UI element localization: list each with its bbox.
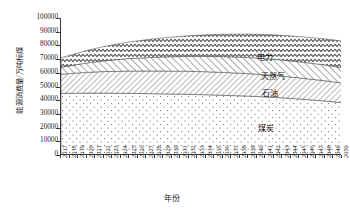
x-axis-tick-label: 2040 (258, 145, 264, 158)
x-axis-tick-label: 2043 (284, 145, 290, 158)
x-axis-tick-label: 2046 (309, 145, 315, 158)
x-axis-tick-label: 2025 (131, 145, 137, 158)
x-axis-tick-label: 2050 (343, 145, 349, 158)
x-axis-tick-label: 2044 (292, 145, 298, 158)
x-axis-tick-label: 2035 (216, 145, 222, 158)
x-axis-tick-label: 2022 (105, 145, 111, 158)
x-axis-tick-label: 2042 (275, 145, 281, 158)
x-axis-tick-label: 2029 (165, 145, 171, 158)
x-axis-tick-label: 2047 (318, 145, 324, 158)
x-axis-tick-label: 2020 (88, 145, 94, 158)
x-axis-tick-label: 2026 (139, 145, 145, 158)
x-axis-tick-label: 2033 (199, 145, 205, 158)
x-axis-tick-label: 2036 (224, 145, 230, 158)
x-axis-tick-label: 2048 (326, 145, 332, 158)
x-axis-tick-label: 2037 (233, 145, 239, 158)
x-axis-tick-label: 2049 (335, 145, 341, 158)
x-axis-tick-label: 2023 (113, 145, 119, 158)
x-axis-tick-label: 2038 (241, 145, 247, 158)
x-axis-tick-label: 2030 (173, 145, 179, 158)
x-axis-tick-label: 2034 (207, 145, 213, 158)
x-axis-tick-label: 2019 (79, 145, 85, 158)
x-axis-tick-label: 2031 (182, 145, 188, 158)
x-axis-tick-label: 2024 (122, 145, 128, 158)
x-axis-tick-label: 2028 (156, 145, 162, 158)
x-axis-tick-label: 2039 (250, 145, 256, 158)
x-axis-title: 年份 (0, 192, 344, 203)
x-axis-tick-label: 2021 (96, 145, 102, 158)
x-axis-tick-label: 2027 (148, 145, 154, 158)
x-axis-tick-label: 2041 (267, 145, 273, 158)
x-axis-tick-label: 2018 (71, 145, 77, 158)
x-axis-tick-label: 2017 (62, 145, 68, 158)
x-axis-tick-label: 2032 (190, 145, 196, 158)
x-axis-tick-label: 2045 (301, 145, 307, 158)
